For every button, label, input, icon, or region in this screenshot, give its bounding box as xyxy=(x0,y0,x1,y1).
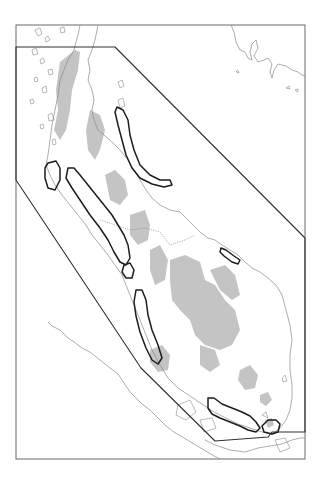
zone-west-coast-loop xyxy=(122,263,134,278)
zone-east-coast-north xyxy=(115,107,172,187)
coastline-north-mainland xyxy=(231,25,305,78)
coastline-south-landmass xyxy=(48,322,220,459)
western-islands xyxy=(30,27,125,145)
zone-west-island xyxy=(45,161,60,190)
island xyxy=(275,438,290,452)
island xyxy=(282,375,287,382)
island xyxy=(200,418,216,432)
island xyxy=(262,412,268,418)
figure-caption xyxy=(16,474,306,480)
island xyxy=(286,86,290,89)
island xyxy=(236,70,239,73)
island xyxy=(176,400,196,420)
island xyxy=(295,89,298,92)
map xyxy=(0,0,324,480)
